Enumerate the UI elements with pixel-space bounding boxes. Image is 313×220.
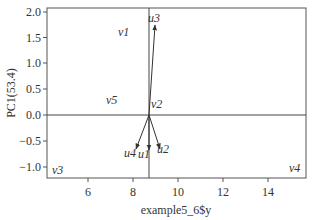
point-label-v4: v4 xyxy=(289,161,300,175)
vector-label-u3: u3 xyxy=(148,11,160,25)
point-label-v3: v3 xyxy=(52,163,63,177)
x-axis-title: example5_6$y xyxy=(141,203,212,217)
x-tick-label: 14 xyxy=(262,185,274,199)
vector-label-u1: u1 xyxy=(138,147,150,161)
point-label-v2: v2 xyxy=(151,97,162,111)
x-tick-label: 6 xyxy=(85,185,91,199)
biplot-chart: 2.0 1.5 1.0 0.5 0.0 −0.5 −1.0 6 8 10 12 … xyxy=(0,0,313,220)
y-tick-label: 1.5 xyxy=(26,31,41,45)
y-tick-label: −1.0 xyxy=(19,160,41,174)
vector-label-u2: u2 xyxy=(157,142,169,156)
y-tick-label: 1.0 xyxy=(26,56,41,70)
y-tick-label: −0.5 xyxy=(19,134,41,148)
vector-labels: u3 u4 u1 u2 xyxy=(124,11,169,161)
y-axis-title: PC1(53.4) xyxy=(4,68,18,118)
plot-frame xyxy=(47,8,306,178)
point-label-v5: v5 xyxy=(106,93,117,107)
vector-label-u4: u4 xyxy=(124,146,136,160)
point-label-v1: v1 xyxy=(118,25,129,39)
y-tick-label: 0.0 xyxy=(26,108,41,122)
x-tick-label: 8 xyxy=(130,185,136,199)
x-tick-label: 10 xyxy=(172,185,184,199)
y-tick-label: 0.5 xyxy=(26,82,41,96)
loading-vectors xyxy=(136,25,160,150)
x-tick-label: 12 xyxy=(217,185,229,199)
y-axis: 2.0 1.5 1.0 0.5 0.0 −0.5 −1.0 xyxy=(19,5,47,174)
y-tick-label: 2.0 xyxy=(26,5,41,19)
arrow-u4 xyxy=(136,115,149,149)
x-axis: 6 8 10 12 14 xyxy=(85,178,274,199)
observation-labels: v1 v2 v3 v4 v5 xyxy=(52,25,300,177)
